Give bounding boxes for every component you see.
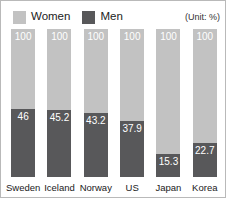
bar-women[interactable]: 10022.7 (193, 29, 217, 177)
legend-item-men: Men (82, 11, 122, 24)
bar-group: 10015.3 (156, 29, 180, 177)
bar-group: 10022.7 (193, 29, 217, 177)
plot-area: 1004610045.210043.210037.910015.310022.7 (1, 29, 226, 177)
bar-women[interactable]: 10046 (11, 29, 35, 177)
bar-men[interactable]: 15.3 (156, 154, 180, 177)
axis-label-iceland: Iceland (41, 182, 77, 193)
legend-swatch-women-icon (13, 11, 26, 24)
bar-men[interactable]: 46 (11, 109, 35, 177)
bar-value-men: 22.7 (195, 146, 214, 177)
bar-men[interactable]: 43.2 (84, 113, 108, 177)
axis-label-norway: Norway (78, 182, 114, 193)
bar-group: 10045.2 (47, 29, 71, 177)
bar-men[interactable]: 22.7 (193, 143, 217, 177)
axis-label-korea: Korea (187, 182, 223, 193)
bar-women[interactable]: 10015.3 (156, 29, 180, 177)
bar-value-men: 45.2 (50, 113, 69, 177)
bar-chart: Women Men (Unit: %) 1004610045.210043.21… (0, 0, 226, 198)
bar-value-men: 46 (18, 112, 29, 177)
bar-men[interactable]: 37.9 (120, 121, 144, 177)
legend-label-men: Men (100, 11, 122, 23)
axis-label-us: US (114, 182, 150, 193)
bar-women[interactable]: 10037.9 (120, 29, 144, 177)
axis-label-japan: Japan (150, 182, 186, 193)
bar-group: 10043.2 (84, 29, 108, 177)
bar-group: 10046 (11, 29, 35, 177)
legend-item-women: Women (13, 11, 70, 24)
legend-label-women: Women (31, 11, 70, 23)
bar-group: 10037.9 (120, 29, 144, 177)
bar-value-men: 37.9 (122, 124, 141, 177)
bar-value-men: 15.3 (159, 157, 178, 177)
x-axis-labels: SwedenIcelandNorwayUSJapanKorea (1, 177, 226, 198)
bar-value-men: 43.2 (86, 116, 105, 177)
legend-swatch-men-icon (82, 11, 95, 24)
unit-note: (Unit: %) (185, 12, 220, 22)
bar-men[interactable]: 45.2 (47, 110, 71, 177)
bar-women[interactable]: 10043.2 (84, 29, 108, 177)
chart-legend: Women Men (Unit: %) (1, 8, 226, 26)
bar-women[interactable]: 10045.2 (47, 29, 71, 177)
axis-label-sweden: Sweden (5, 182, 41, 193)
